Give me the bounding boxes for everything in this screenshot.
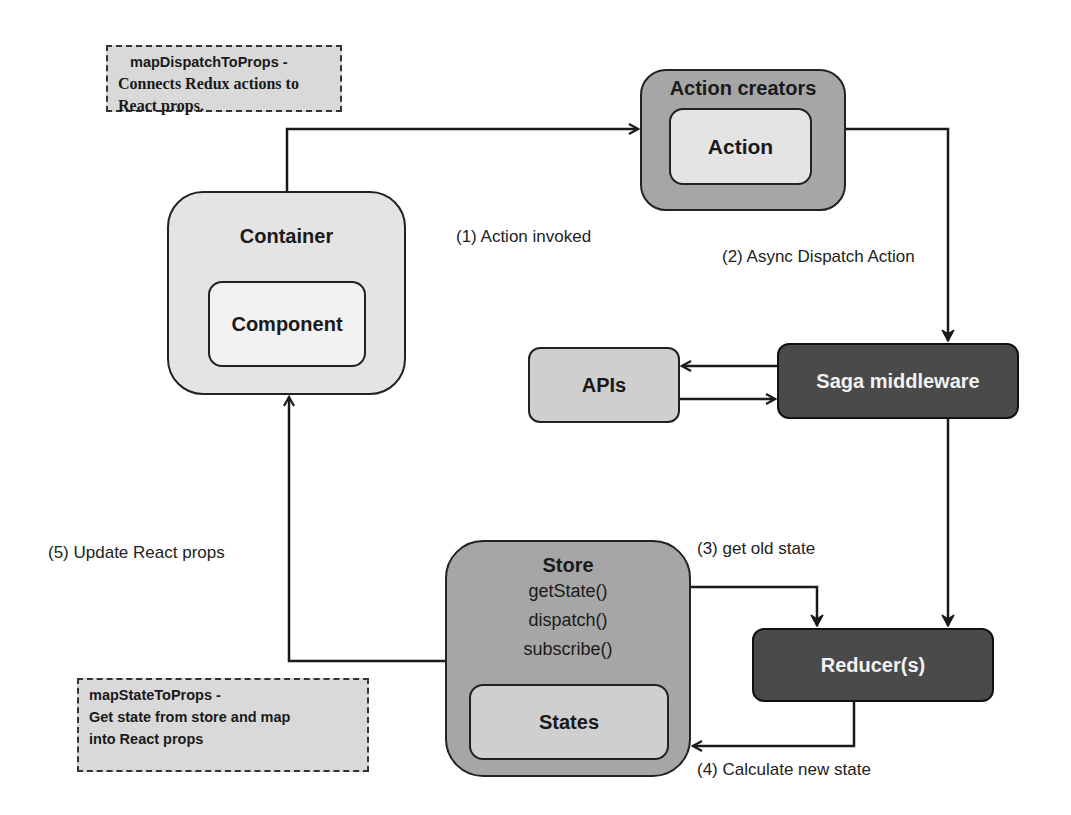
step3-label: (3) get old state (697, 539, 815, 559)
step5-label: (5) Update React props (48, 543, 225, 563)
container-title: Container (240, 225, 333, 248)
note-body: Connects Redux actions to React props. (118, 73, 330, 117)
edge-action-creators-to-saga (846, 129, 948, 341)
saga-middleware-node[interactable]: Saga middleware (777, 343, 1019, 419)
edge-store-to-reducer (691, 587, 817, 626)
component-title: Component (231, 313, 342, 336)
apis-node[interactable]: APIs (528, 347, 680, 423)
states-title: States (539, 711, 599, 734)
apis-title: APIs (582, 374, 626, 397)
reducer-node[interactable]: Reducer(s) (752, 628, 994, 702)
step4-label: (4) Calculate new state (697, 760, 871, 780)
edge-store-to-container (289, 397, 445, 661)
note-title: mapDispatchToProps - (130, 51, 330, 73)
store-method-subscribe: subscribe() (523, 635, 612, 664)
states-node[interactable]: States (469, 684, 669, 760)
edge-reducer-to-store (693, 702, 854, 746)
edge-container-to-action-creators (287, 129, 638, 191)
action-creators-title: Action creators (670, 77, 817, 100)
store-method-dispatch: dispatch() (528, 606, 607, 635)
step1-label: (1) Action invoked (456, 227, 591, 247)
map-state-to-props-note: mapStateToProps - Get state from store a… (77, 678, 369, 772)
action-node[interactable]: Action (669, 108, 812, 185)
store-method-getstate: getState() (528, 577, 607, 606)
map-dispatch-to-props-note: mapDispatchToProps - Connects Redux acti… (106, 45, 342, 112)
note-line-1: Get state from store and map (89, 706, 357, 728)
reducer-title: Reducer(s) (821, 654, 925, 677)
component-node[interactable]: Component (208, 281, 366, 367)
action-title: Action (708, 135, 773, 159)
store-title: Store (542, 554, 593, 577)
step2-label: (2) Async Dispatch Action (722, 247, 915, 267)
note-title: mapStateToProps - (89, 684, 357, 706)
note-line-2: into React props (89, 728, 357, 750)
saga-title: Saga middleware (816, 370, 979, 393)
